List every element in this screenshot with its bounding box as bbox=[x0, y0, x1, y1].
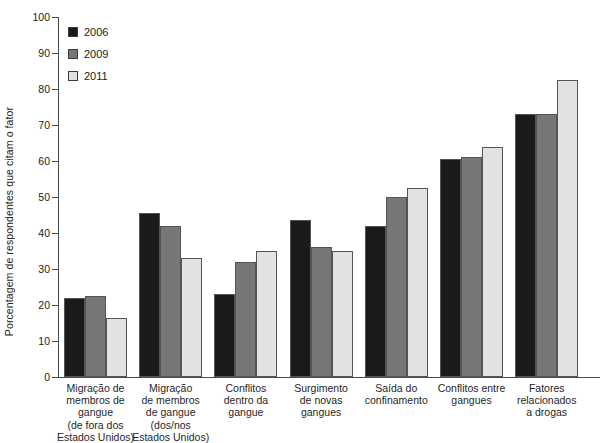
bar-2009 bbox=[235, 262, 256, 377]
bar-group bbox=[515, 17, 578, 377]
bar-2009 bbox=[386, 197, 407, 377]
y-axis-tick-label: 10 bbox=[10, 335, 50, 347]
y-axis-tick bbox=[52, 17, 58, 18]
y-axis-tick bbox=[52, 233, 58, 234]
bar-2009 bbox=[536, 114, 557, 377]
plot-area: 0102030405060708090100 bbox=[58, 17, 600, 377]
category-label-line: a drogas bbox=[491, 406, 603, 418]
y-axis-tick-label: 100 bbox=[10, 11, 50, 23]
x-axis-line bbox=[58, 377, 600, 378]
bar-2009 bbox=[85, 296, 106, 377]
category-label-line: relacionados bbox=[491, 394, 603, 406]
bar-2009 bbox=[461, 157, 482, 377]
y-axis-tick-label: 30 bbox=[10, 263, 50, 275]
y-axis-tick bbox=[52, 125, 58, 126]
y-axis-tick-label: 90 bbox=[10, 47, 50, 59]
y-axis-tick-label: 20 bbox=[10, 299, 50, 311]
bar-2011 bbox=[106, 318, 127, 377]
bar-group bbox=[214, 17, 277, 377]
x-axis-category-labels: Migração demembros degangue(de fora dosE… bbox=[58, 382, 600, 443]
y-axis-tick bbox=[52, 161, 58, 162]
bar-group bbox=[64, 17, 127, 377]
bar-2011 bbox=[557, 80, 578, 377]
bar-group bbox=[290, 17, 353, 377]
y-axis-tick bbox=[52, 197, 58, 198]
y-axis-tick-label: 80 bbox=[10, 83, 50, 95]
category-label-line: Fatores bbox=[491, 382, 603, 394]
y-axis-tick-label: 70 bbox=[10, 119, 50, 131]
bar-2006 bbox=[440, 159, 461, 377]
bar-2011 bbox=[256, 251, 277, 377]
y-axis-tick-label: 60 bbox=[10, 155, 50, 167]
bar-2009 bbox=[311, 247, 332, 377]
bar-2006 bbox=[515, 114, 536, 377]
y-axis-tick-label: 40 bbox=[10, 227, 50, 239]
y-axis-tick bbox=[52, 53, 58, 54]
bar-group bbox=[440, 17, 503, 377]
y-axis-tick-label: 50 bbox=[10, 191, 50, 203]
bar-2011 bbox=[407, 188, 428, 377]
bar-2006 bbox=[139, 213, 160, 377]
bar-2011 bbox=[332, 251, 353, 377]
category-label-line: (dos/nos bbox=[115, 419, 227, 431]
bar-2006 bbox=[290, 220, 311, 377]
y-axis-tick bbox=[52, 377, 58, 378]
y-axis-line bbox=[58, 17, 59, 377]
bar-chart: Porcentagem de respondentes que citam o … bbox=[0, 0, 609, 443]
y-axis-tick bbox=[52, 305, 58, 306]
category-label-line: gangues bbox=[265, 406, 377, 418]
bar-group bbox=[365, 17, 428, 377]
category-label-line: Estados Unidos) bbox=[115, 431, 227, 443]
bar-2009 bbox=[160, 226, 181, 377]
bar-2006 bbox=[64, 298, 85, 377]
y-axis-tick bbox=[52, 269, 58, 270]
bar-2006 bbox=[214, 294, 235, 377]
category-label: Fatoresrelacionadosa drogas bbox=[491, 382, 603, 419]
bar-group bbox=[139, 17, 202, 377]
bar-2011 bbox=[482, 147, 503, 377]
bar-2006 bbox=[365, 226, 386, 377]
bar-2011 bbox=[181, 258, 202, 377]
y-axis-tick bbox=[52, 89, 58, 90]
y-axis-tick bbox=[52, 341, 58, 342]
